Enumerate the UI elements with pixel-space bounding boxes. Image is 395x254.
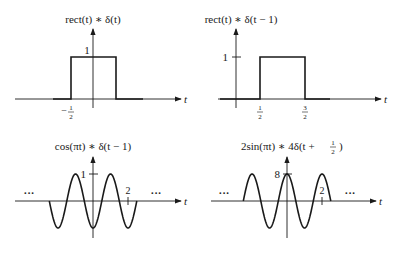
svg-text:1: 1	[69, 104, 73, 112]
svg-text:2sin(πt) ∗ 4δ(t +: 2sin(πt) ∗ 4δ(t +	[241, 140, 315, 153]
svg-text:2: 2	[303, 113, 307, 121]
y-tick-label: 1	[81, 168, 87, 180]
plot-title: cos(πt) ∗ δ(t − 1)	[55, 140, 132, 153]
x-tick-label: 2	[320, 185, 325, 196]
x-tick-three-halves: 3 2	[302, 104, 308, 121]
plot-rect-delta-shift: rect(t) ∗ δ(t − 1) t 1 1 2 3 2	[205, 13, 388, 121]
x-tick-half: 1 2	[257, 104, 263, 121]
plot-sin-delta: 2sin(πt) ∗ 4δ(t + 1 2 ) t 8 2 ··· ···	[211, 139, 383, 238]
ellipsis-right: ···	[344, 187, 355, 199]
plot-title: 2sin(πt) ∗ 4δ(t + 1 2 )	[241, 139, 343, 156]
x-axis-label: t	[184, 195, 188, 207]
svg-text:): )	[339, 140, 343, 153]
svg-text:−: −	[61, 105, 67, 116]
x-axis-label: t	[184, 93, 188, 105]
svg-text:1: 1	[258, 104, 262, 112]
y-tick-label: 1	[84, 44, 90, 56]
svg-text:2: 2	[258, 113, 262, 121]
x-tick-neg-half: − 1 2	[61, 104, 74, 121]
y-tick-label: 1	[223, 51, 229, 63]
x-tick-label: 2	[126, 185, 131, 196]
x-axis-label: t	[379, 195, 383, 207]
x-axis-label: t	[384, 93, 388, 105]
y-tick-label: 8	[275, 168, 281, 180]
svg-text:2: 2	[69, 113, 73, 121]
ellipsis-left: ···	[23, 187, 34, 199]
plot-title: rect(t) ∗ δ(t − 1)	[205, 13, 278, 26]
figure-canvas: rect(t) ∗ δ(t) t 1 − 1 2 rect(t) ∗ δ(t −…	[0, 0, 395, 254]
plot-rect-delta: rect(t) ∗ δ(t) t 1 − 1 2	[15, 13, 188, 121]
ellipsis-left: ···	[218, 187, 229, 199]
plot-title: rect(t) ∗ δ(t)	[65, 13, 121, 26]
plot-cos-delta: cos(πt) ∗ δ(t − 1) t 1 2 ··· ···	[15, 140, 188, 238]
svg-text:3: 3	[303, 104, 307, 112]
svg-text:1: 1	[331, 139, 335, 147]
rect-pulse	[220, 57, 330, 99]
ellipsis-right: ···	[150, 187, 161, 199]
rect-pulse	[53, 57, 143, 99]
svg-text:2: 2	[331, 148, 335, 156]
